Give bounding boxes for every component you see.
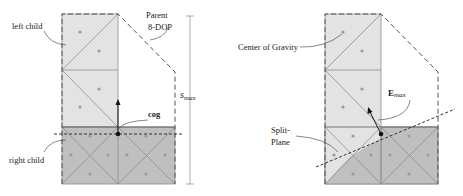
centroid-dot bbox=[341, 105, 344, 108]
centroid-dot bbox=[106, 153, 109, 156]
parent-label-line1: Parent bbox=[146, 10, 168, 20]
centroid-dot bbox=[407, 134, 410, 137]
smax-sub: max bbox=[184, 94, 197, 102]
right-child-label: right child bbox=[9, 155, 45, 165]
centroid-dot bbox=[163, 153, 166, 156]
left-child-region bbox=[62, 14, 118, 127]
center-of-gravity-label: Center of Gravity bbox=[238, 42, 299, 52]
centroid-dot bbox=[78, 30, 81, 33]
centroid-dot bbox=[407, 172, 410, 175]
centroid-dot bbox=[351, 134, 354, 137]
left-panel: left child right child Parent 8-DOP cog … bbox=[9, 10, 196, 184]
centroid-dot bbox=[78, 105, 81, 108]
centroid-dot bbox=[97, 49, 100, 52]
parent-label-line2: 8-DOP bbox=[148, 22, 172, 32]
centroid-dot bbox=[88, 134, 91, 137]
centroid-dot bbox=[125, 153, 128, 156]
centroid-dot bbox=[144, 172, 147, 175]
centroid-dot bbox=[351, 172, 354, 175]
centroid-dot bbox=[360, 49, 363, 52]
emax-label: Emax bbox=[388, 88, 407, 99]
centroid-dot bbox=[426, 153, 429, 156]
centroid-dot bbox=[360, 87, 363, 90]
centroid-dot bbox=[88, 172, 91, 175]
emax-sub: max bbox=[394, 91, 407, 99]
cog-point bbox=[116, 132, 121, 137]
smax-label: smax bbox=[180, 89, 196, 102]
centroid-dot bbox=[69, 153, 72, 156]
split-plane-label-line2: Plane bbox=[271, 137, 290, 147]
right-panel: Center of Gravity Emax Split- Plane bbox=[238, 14, 455, 184]
cog-label: cog bbox=[148, 109, 161, 119]
emax-leader bbox=[378, 100, 410, 120]
centroid-dot bbox=[369, 153, 372, 156]
cog-point bbox=[379, 132, 384, 137]
centroid-dot bbox=[144, 134, 147, 137]
figure-canvas: left child right child Parent 8-DOP cog … bbox=[0, 0, 463, 196]
centroid-dot bbox=[341, 30, 344, 33]
left-child-label: left child bbox=[12, 21, 43, 31]
centroid-dot bbox=[332, 153, 335, 156]
centroid-dot bbox=[388, 153, 391, 156]
centroid-dot bbox=[97, 87, 100, 90]
split-plane-label-line1: Split- bbox=[271, 125, 290, 135]
